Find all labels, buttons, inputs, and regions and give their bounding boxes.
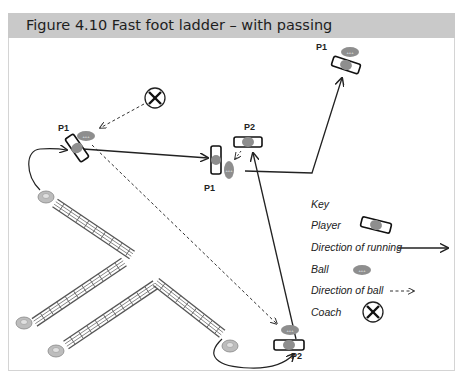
- player-label: P1: [58, 123, 69, 133]
- ball-icon: +++: [353, 265, 371, 275]
- legend-label-player: Player: [311, 219, 341, 231]
- legend-heading: Key: [311, 198, 330, 210]
- ladder-lower: [63, 278, 224, 348]
- player-label: P1: [316, 42, 327, 52]
- player-p1-top-right: P1 +++: [316, 42, 361, 74]
- svg-text:+++: +++: [358, 268, 366, 273]
- svg-text:+++: +++: [225, 168, 233, 173]
- legend-label-coach: Coach: [311, 306, 342, 318]
- player-p2-bottom-right: P2 +++: [274, 325, 304, 361]
- cone-icon: [16, 317, 32, 329]
- ball-icon: +++: [341, 47, 359, 57]
- ball-icon: +++: [281, 325, 299, 335]
- cone-icon: [38, 191, 54, 203]
- cone-icon: [48, 345, 64, 357]
- running-path-middle-to-top-right: [245, 78, 342, 173]
- running-path-p2-up: [253, 153, 296, 339]
- coach-icon: [145, 88, 165, 108]
- ball-path-p1-to-p2-short: [235, 151, 241, 159]
- cone-icon: [222, 340, 238, 352]
- svg-text:+++: +++: [286, 328, 294, 333]
- legend-label-direction-of-ball: Direction of ball: [311, 284, 384, 296]
- svg-text:+++: +++: [82, 134, 90, 139]
- player-label: P1: [204, 183, 215, 193]
- running-path-p1-to-middle: [83, 149, 208, 158]
- ball-path-p1-to-p2: [92, 145, 277, 324]
- drill-diagram: P1 +++ P1 +++ P2 P1 ++: [0, 0, 464, 382]
- coach-icon: [363, 302, 383, 322]
- running-path-curve-left: [29, 149, 67, 190]
- svg-text:+++: +++: [346, 50, 354, 55]
- ball-path-coach-to-p1: [100, 104, 144, 128]
- legend-label-ball: Ball: [311, 263, 329, 275]
- player-icon: [360, 217, 392, 234]
- ball-icon: +++: [77, 131, 95, 141]
- legend-label-direction-of-running: Direction of running: [311, 241, 402, 253]
- player-p1-left: P1 +++: [58, 123, 95, 163]
- legend: Key Player Direction of running Ball +++…: [311, 198, 448, 322]
- player-label: P2: [291, 351, 302, 361]
- player-p1-middle: P1 +++: [204, 146, 234, 193]
- player-label: P2: [244, 122, 255, 132]
- ball-icon: +++: [224, 161, 234, 179]
- player-p2-middle: P2: [234, 122, 262, 147]
